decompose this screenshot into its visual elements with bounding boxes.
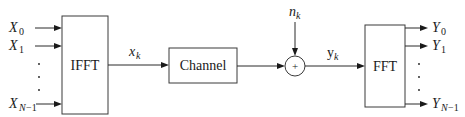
arrow-icon xyxy=(292,48,298,56)
arrow-icon xyxy=(420,101,428,107)
arrow-icon xyxy=(54,43,62,49)
signal-xk: x k xyxy=(108,44,169,68)
arrow-icon xyxy=(420,25,428,31)
xk-symbol: x xyxy=(128,44,136,59)
xk-subscript: k xyxy=(136,50,141,61)
arrow-icon xyxy=(161,62,169,68)
channel-block: Channel xyxy=(169,48,237,83)
input-xn-1-symbol: X xyxy=(8,96,18,111)
plus-icon: + xyxy=(292,60,298,72)
arrow-icon xyxy=(54,101,62,107)
ellipsis-dot xyxy=(38,76,40,78)
signal-yk: y k xyxy=(305,45,365,69)
output-y0: Y 0 xyxy=(405,20,446,37)
output-yn-1-subscript-suffix: −1 xyxy=(448,102,459,113)
ellipsis-dot xyxy=(418,89,420,91)
output-y1-subscript: 1 xyxy=(441,44,446,55)
fft-label: FFT xyxy=(373,59,398,74)
input-x1-subscript: 1 xyxy=(19,44,24,55)
input-x1: X 1 xyxy=(8,38,62,55)
ellipsis-dot xyxy=(38,89,40,91)
input-xn-1-subscript-suffix: −1 xyxy=(26,102,37,113)
input-x1-symbol: X xyxy=(8,38,18,53)
ellipsis-dot xyxy=(418,76,420,78)
output-y1: Y 1 xyxy=(405,38,446,55)
ellipsis-dot xyxy=(38,63,40,65)
arrow-icon xyxy=(54,25,62,31)
ifft-block: IFFT xyxy=(62,16,108,114)
ellipsis-dot xyxy=(418,63,420,65)
arrow-icon xyxy=(357,63,365,69)
channel-label: Channel xyxy=(180,58,227,73)
yk-symbol: y xyxy=(327,45,334,60)
arrow-icon xyxy=(277,63,285,69)
fft-block: FFT xyxy=(365,25,405,107)
noise-input: n k xyxy=(289,4,301,56)
yk-subscript: k xyxy=(334,51,339,62)
input-x0-subscript: 0 xyxy=(19,26,24,37)
ifft-label: IFFT xyxy=(71,58,100,73)
nk-subscript: k xyxy=(296,10,301,21)
input-x0-symbol: X xyxy=(8,20,18,35)
input-x0: X 0 xyxy=(8,20,62,37)
arrow-icon xyxy=(420,43,428,49)
output-ellipsis xyxy=(418,63,420,91)
input-xn-1: X N −1 xyxy=(8,96,62,113)
output-y0-subscript: 0 xyxy=(441,26,446,37)
ofdm-block-diagram: X 0 X 1 X N −1 IFFT x k Channel xyxy=(0,0,465,117)
input-ellipsis xyxy=(38,63,40,91)
nk-symbol: n xyxy=(289,4,296,19)
output-yn-1: Y N −1 xyxy=(405,96,459,113)
adder: + xyxy=(285,56,305,76)
